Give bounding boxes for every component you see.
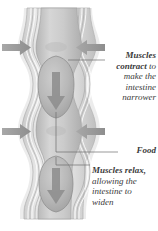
- callout-muscles-contract: Muscles contract to make the intestine n…: [102, 50, 156, 103]
- callout-food: Food: [116, 145, 156, 156]
- callout-food-label: Food: [136, 145, 156, 155]
- peristalsis-diagram: Muscles contract to make the intestine n…: [0, 0, 158, 231]
- callout-muscles-relax: Muscles relax, allowing the intestine to…: [92, 165, 154, 207]
- callout-relax-rest: allowing the intestine to widen: [92, 176, 137, 207]
- callout-relax-lead: Muscles relax,: [92, 165, 146, 175]
